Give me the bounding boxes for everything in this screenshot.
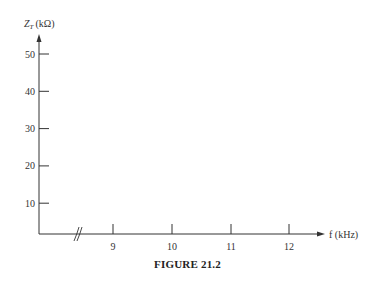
svg-text:11: 11: [226, 241, 236, 252]
svg-text:12: 12: [284, 241, 294, 252]
x-ticks: [113, 224, 289, 234]
y-axis-arrow-icon: [37, 34, 42, 42]
svg-text:10: 10: [167, 241, 177, 252]
svg-text:30: 30: [25, 123, 35, 134]
svg-text:10: 10: [25, 198, 35, 209]
svg-text:50: 50: [25, 49, 35, 60]
chart: 50 40 30 20 10 9 10 11 12 ZT(kΩ) f (kHz): [0, 0, 375, 286]
svg-text:20: 20: [25, 160, 35, 171]
figure-caption: FIGURE 21.2: [0, 258, 375, 270]
y-axis-label: ZT(kΩ): [24, 18, 55, 31]
svg-text:9: 9: [111, 241, 116, 252]
y-ticks: [39, 54, 49, 203]
svg-text:40: 40: [25, 86, 35, 97]
x-tick-labels: 9 10 11 12: [111, 241, 295, 252]
x-axis-arrow-icon: [317, 232, 325, 237]
x-axis-label: f (kHz): [329, 229, 358, 241]
y-tick-labels: 50 40 30 20 10: [25, 49, 35, 209]
